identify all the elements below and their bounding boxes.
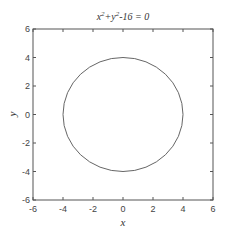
axes-box (33, 29, 213, 200)
y-tick-label: -2 (22, 138, 30, 148)
y-tick-label: 0 (25, 110, 30, 120)
y-tick-label: -6 (22, 195, 30, 205)
y-axis-label: y (6, 111, 18, 117)
y-tick-label: 2 (25, 81, 30, 91)
x-tick-label: 6 (210, 204, 215, 214)
x-tick-label: 4 (180, 204, 185, 214)
y-tick-label: 4 (25, 53, 30, 63)
y-axis-ticks: -6-4-20246 (22, 24, 213, 205)
y-tick-label: 6 (25, 24, 30, 34)
x-axis-label: x (120, 216, 126, 228)
x-tick-label: 2 (150, 204, 155, 214)
x-tick-label: -4 (59, 204, 67, 214)
circle-curve (63, 58, 183, 172)
x-tick-label: -6 (29, 204, 37, 214)
y-tick-label: -4 (22, 167, 30, 177)
chart-title: x2+y2-16 = 0 (96, 10, 150, 22)
x-tick-label: 0 (120, 204, 125, 214)
plot-figure: x2+y2-16 = 0 -6-4-20246 -6-4-20246 x y (0, 0, 229, 236)
x-tick-label: -2 (89, 204, 97, 214)
x-axis-ticks: -6-4-20246 (29, 29, 216, 214)
